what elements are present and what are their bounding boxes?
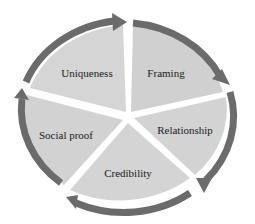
label-framing: Framing (147, 67, 184, 79)
label-credibility: Credibility (104, 167, 152, 179)
label-relationship: Relationship (157, 124, 213, 136)
label-uniqueness: Uniqueness (61, 67, 112, 79)
cycle-diagram (0, 0, 255, 224)
arrowhead-icon (66, 195, 78, 209)
arrowhead-icon (14, 88, 29, 100)
arrowhead-icon (196, 178, 212, 193)
label-social-proof: Social proof (39, 129, 93, 141)
